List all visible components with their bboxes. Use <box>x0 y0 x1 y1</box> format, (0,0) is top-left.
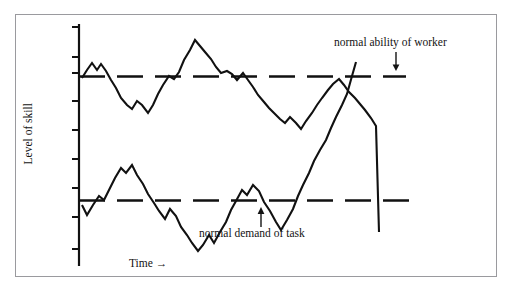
series-worker-ability <box>82 40 379 232</box>
annotation-normal-demand-arrow <box>253 205 269 227</box>
figure-container: Level of skill Time → normal ability of … <box>0 0 512 288</box>
series-task-demand <box>82 62 356 251</box>
annotation-normal-ability-arrow <box>388 52 404 72</box>
annotation-normal-ability-label: normal ability of worker <box>334 37 447 49</box>
x-axis-label: Time → <box>129 258 167 270</box>
annotation-normal-demand-label: normal demand of task <box>199 228 305 240</box>
y-axis-label: Level of skill <box>23 89 35 179</box>
